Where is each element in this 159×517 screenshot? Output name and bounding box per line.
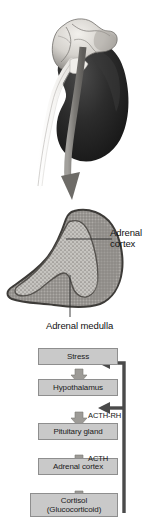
flow-label-acth: ACTH <box>88 454 108 463</box>
flow-box-stress-label: Stress <box>67 352 89 361</box>
flow-box-cortisol-line2: (Glucocorticoid) <box>47 505 101 514</box>
flow-box-stress[interactable]: Stress <box>38 348 118 365</box>
flow-box-hypothalamus-label: Hypothalamus <box>53 383 103 392</box>
flow-label-acth-rh: ACTH-RH <box>88 411 121 420</box>
label-adrenal-cortex: Adrenal cortex <box>110 228 158 249</box>
flow-box-cortisol-line1: Cortisol <box>61 496 87 505</box>
flowchart-panel: Stress Hypothalamus Pituitary gland Adre… <box>0 345 159 513</box>
flow-box-hypothalamus[interactable]: Hypothalamus <box>38 379 118 396</box>
kidney-illustration <box>0 0 159 205</box>
flow-box-cortisol[interactable]: Cortisol (Glucocorticoid) <box>30 493 118 517</box>
kidney-panel <box>0 0 159 205</box>
label-adrenal-cortex-line2: cortex <box>110 238 135 249</box>
flow-box-pituitary-gland-label: Pituitary gland <box>53 427 102 436</box>
flow-box-pituitary-gland[interactable]: Pituitary gland <box>38 423 118 440</box>
label-adrenal-cortex-line1: Adrenal <box>110 227 142 238</box>
label-adrenal-medulla: Adrenal medulla <box>0 320 159 331</box>
flow-box-adrenal-cortex-label: Adrenal cortex <box>53 462 103 471</box>
